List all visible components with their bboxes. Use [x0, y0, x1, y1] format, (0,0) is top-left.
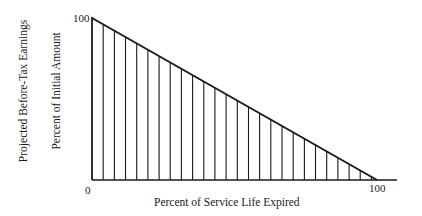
earnings-line	[92, 18, 377, 180]
chart-plot	[0, 0, 422, 216]
